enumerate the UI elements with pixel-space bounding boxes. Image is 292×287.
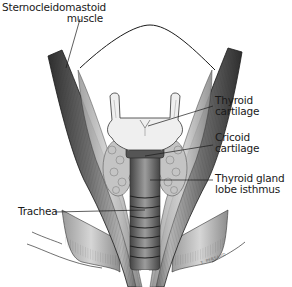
label-line: lobe isthmus xyxy=(215,184,284,195)
label-thyroid-cartilage: Thyroid cartilage xyxy=(215,95,259,117)
anatomy-figure: Sternocleidomastoid muscle Thyroid carti… xyxy=(0,0,292,287)
thyroid-cartilage xyxy=(108,93,183,150)
trachea xyxy=(130,150,160,287)
jaw-outline xyxy=(80,25,215,70)
label-line: cartilage xyxy=(215,143,259,154)
label-cricoid-cartilage: Cricoid cartilage xyxy=(215,132,259,154)
label-line: Trachea xyxy=(18,206,58,217)
label-line: cartilage xyxy=(215,106,259,117)
label-line: muscle xyxy=(2,13,103,24)
leader-scm xyxy=(66,19,80,68)
label-trachea: Trachea xyxy=(18,206,58,217)
label-thyroid-gland: Thyroid gland lobe isthmus xyxy=(215,173,284,195)
label-sternocleidomastoid: Sternocleidomastoid muscle xyxy=(2,2,103,24)
